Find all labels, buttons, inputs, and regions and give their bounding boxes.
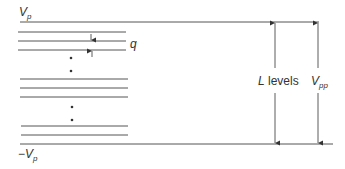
top-rail-label: Vp bbox=[19, 5, 32, 21]
vpp-label: Vpp bbox=[311, 74, 328, 90]
step-label: q bbox=[130, 37, 137, 51]
step-arrows bbox=[91, 34, 92, 57]
l-levels-label: L levels bbox=[258, 74, 299, 88]
bottom-rail-label: −Vp bbox=[18, 147, 38, 163]
ellipsis-dots bbox=[70, 57, 74, 122]
quantization-diagram: Vp −Vp q L levels Vpp bbox=[0, 0, 345, 169]
